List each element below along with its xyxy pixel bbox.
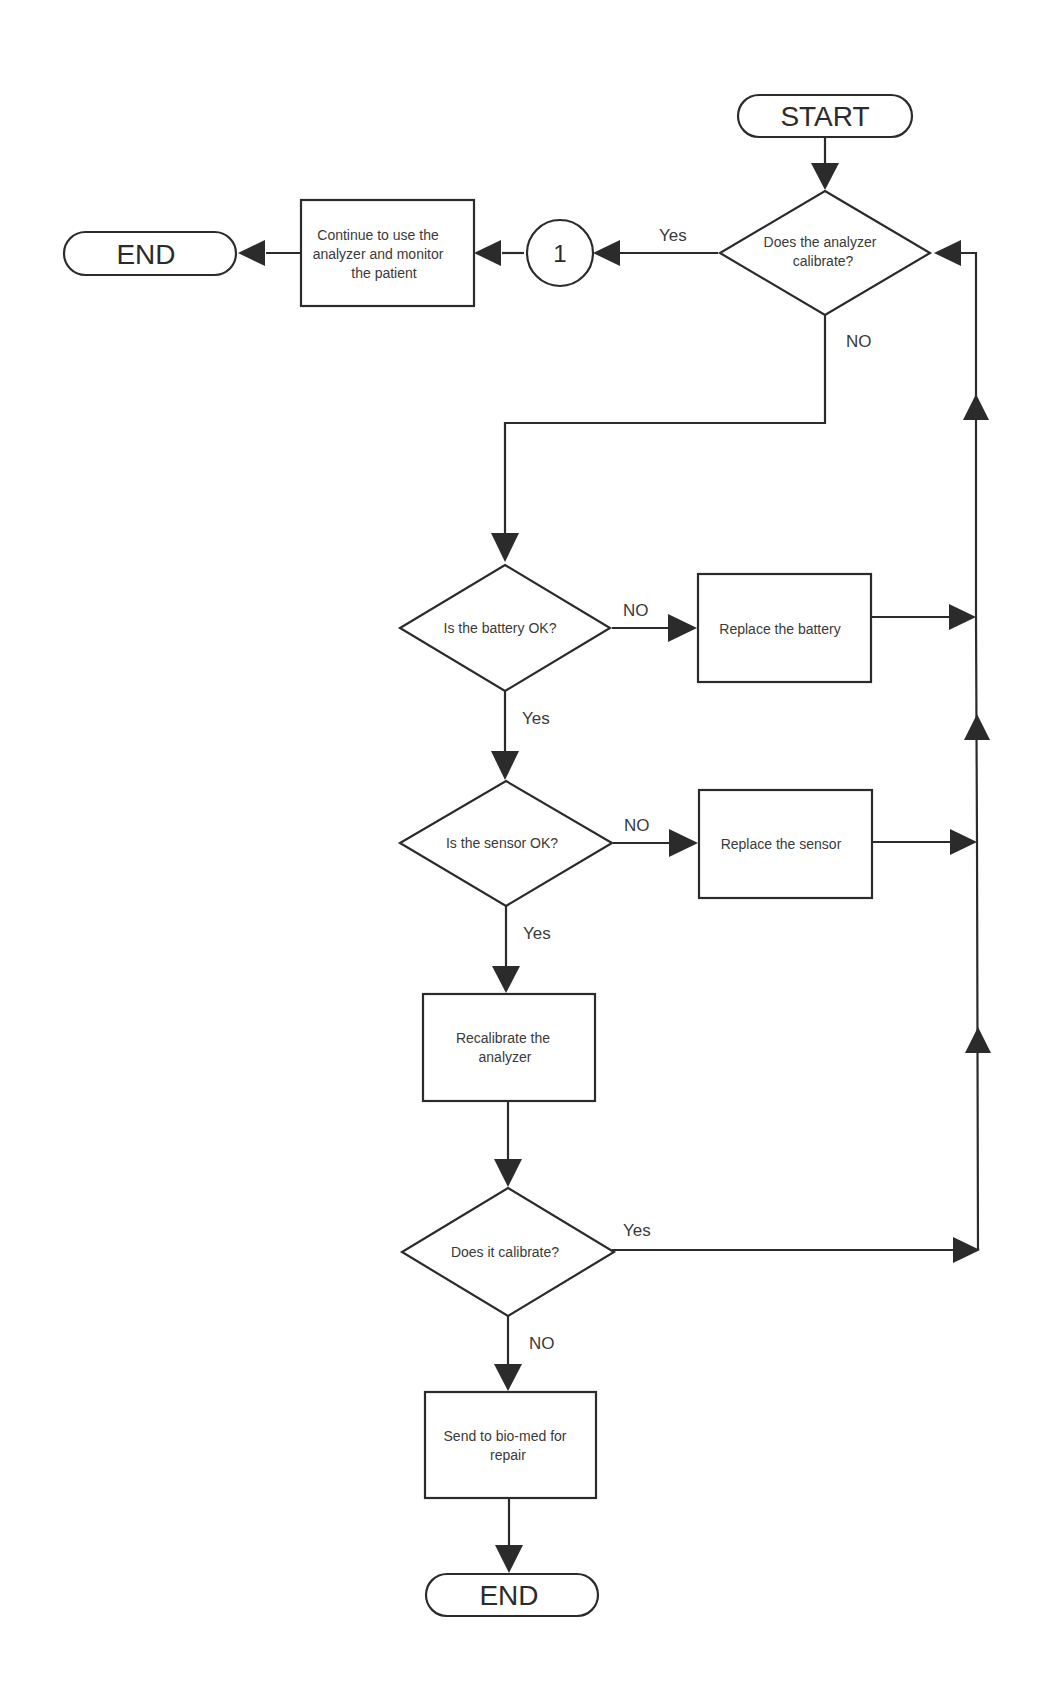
decision-battery-ok: Is the battery OK?: [400, 565, 610, 691]
start-label: START: [780, 101, 869, 132]
arrowheads: [238, 163, 991, 1573]
label-battery-yes: Yes: [522, 709, 550, 728]
process-send-biomed: Send to bio-med for repair: [425, 1392, 596, 1498]
arrow-left-icon: [934, 240, 961, 266]
process-line-1: Replace the battery: [719, 621, 840, 637]
label-analyzer-no: NO: [846, 332, 872, 351]
end-label: END: [479, 1580, 538, 1611]
label-analyzer-yes: Yes: [659, 226, 687, 245]
decision-line-1: Does it calibrate?: [451, 1244, 559, 1260]
connector-label: 1: [553, 240, 566, 267]
end-terminal-bottom: END: [426, 1574, 598, 1616]
label-calibrate-no: NO: [529, 1334, 555, 1353]
arrow-left-icon: [474, 240, 501, 266]
arrow-right-icon: [949, 604, 976, 630]
arrow-down-icon: [491, 533, 519, 562]
arrow-right-icon: [669, 829, 698, 857]
decision-does-it-calibrate: Does it calibrate?: [402, 1188, 614, 1316]
decision-sensor-ok: Is the sensor OK?: [400, 781, 612, 906]
connector-1: 1: [527, 220, 593, 286]
arrow-down-icon: [495, 1545, 523, 1573]
arrow-down-icon: [491, 751, 519, 780]
arrow-down-icon: [492, 966, 520, 993]
arrow-right-icon: [668, 614, 697, 642]
arrow-down-icon: [811, 163, 839, 190]
process-replace-sensor: Replace the sensor: [699, 790, 872, 898]
process-line-2: analyzer and monitor: [313, 246, 444, 262]
arrow-up-icon: [965, 1027, 991, 1053]
decision-analyzer-calibrate: Does the analyzer calibrate?: [720, 191, 930, 315]
arrow-up-icon: [963, 394, 989, 420]
process-line-1: Replace the sensor: [721, 836, 842, 852]
arrow-down-icon: [494, 1159, 522, 1187]
flowchart-canvas: START Does the analyzer calibrate? 1 Con…: [0, 0, 1044, 1696]
label-sensor-no: NO: [624, 816, 650, 835]
end-terminal-top: END: [64, 232, 236, 275]
arrow-left-icon: [238, 240, 265, 266]
arrow-left-icon: [593, 240, 620, 266]
arrow-right-icon: [950, 829, 977, 855]
process-recalibrate: Recalibrate the analyzer: [423, 994, 595, 1101]
process-line-1: Continue to use the: [317, 227, 439, 243]
process-line-3: the patient: [351, 265, 416, 281]
start-terminal: START: [738, 95, 912, 137]
edge-analyzer-no: [505, 314, 825, 534]
decision-line-2: calibrate?: [793, 253, 854, 269]
process-replace-battery: Replace the battery: [698, 574, 871, 682]
process-continue-monitor: Continue to use the analyzer and monitor…: [301, 200, 474, 306]
process-line-2: repair: [490, 1447, 526, 1463]
end-label: END: [116, 239, 175, 270]
label-sensor-yes: Yes: [523, 924, 551, 943]
process-line-1: Recalibrate the: [456, 1030, 550, 1046]
decision-line-1: Is the battery OK?: [444, 620, 557, 636]
decision-line-1: Does the analyzer: [764, 234, 877, 250]
label-battery-no: NO: [623, 601, 649, 620]
label-calibrate-yes: Yes: [623, 1221, 651, 1240]
arrow-right-icon: [953, 1237, 980, 1263]
process-line-2: analyzer: [479, 1049, 532, 1065]
arrow-up-icon: [964, 714, 990, 740]
arrow-down-icon: [494, 1364, 522, 1391]
decision-line-1: Is the sensor OK?: [446, 835, 558, 851]
process-line-1: Send to bio-med for: [444, 1428, 567, 1444]
